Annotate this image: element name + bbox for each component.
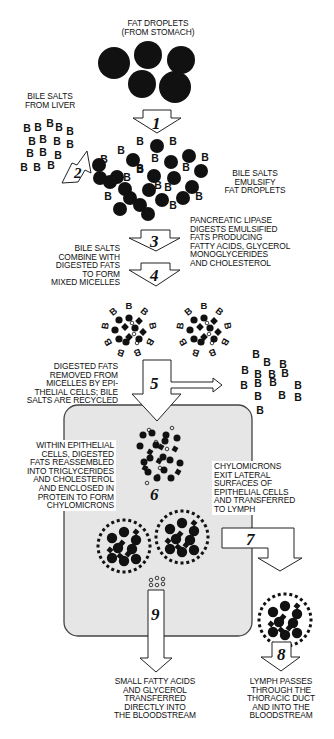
bile-salt-icon: B: [139, 305, 151, 318]
bile-salt-icon: B: [28, 135, 36, 147]
protein-coat-dot-icon: [260, 629, 264, 633]
fat-droplet-icon: [140, 432, 147, 439]
fat-droplet-icon: [174, 435, 181, 442]
bile-salt-icon: B: [104, 190, 112, 202]
fat-droplet-icon: [167, 457, 174, 464]
emulsified-droplets-group: BBBBBBBBBBBBBBB: [92, 135, 209, 221]
step-1-number: 1: [152, 114, 161, 133]
step-4-arrow: 4: [129, 263, 180, 286]
protein-coat-dot-icon: [207, 536, 210, 539]
protein-coat-dot-icon: [181, 562, 184, 565]
bile-salt-icon: B: [164, 181, 172, 193]
fat-droplet-icon: [163, 432, 170, 439]
step-8-arrow: 8: [261, 642, 300, 671]
step-2-arrow: 2: [62, 151, 91, 183]
fat-droplet-icon: [190, 335, 197, 342]
lymph-passes-label: LYMPH PASSES THROUGH THE THORACIC DUCT A…: [236, 677, 326, 720]
step-5-number: 5: [150, 374, 159, 393]
protein-coat-dot-icon: [310, 619, 313, 622]
bile-salt-icon: B: [136, 163, 144, 175]
protein-coat-dot-icon: [267, 598, 271, 602]
fat-droplet-icon: [115, 335, 122, 342]
bile-salt-icon: B: [99, 321, 111, 330]
micelles-group: BBBBBBBBBBBBBBBBBB: [99, 300, 234, 359]
bile-salt-icon: B: [55, 121, 63, 133]
bile-salt-icon: B: [33, 161, 41, 173]
fat-droplet-icon: [125, 314, 132, 321]
small-fatty-acids-label: SMALL FATTY ACIDS AND GLYCEROL TRANSFERR…: [105, 677, 205, 720]
bile-salt-icon: B: [117, 144, 125, 156]
bile-salt-icon: B: [241, 364, 249, 376]
fat-droplet-icon: [98, 47, 130, 79]
protein-coat-dot-icon: [272, 595, 276, 599]
cholesterol-icon: [135, 317, 143, 325]
bile-salt-icon: B: [294, 379, 302, 391]
protein-coat-dot-icon: [299, 598, 303, 602]
fat-droplets-group: [98, 41, 195, 103]
bile-salt-icon: B: [214, 305, 226, 318]
fatty-acid-icon: [205, 321, 209, 325]
bile-salt-icon: B: [263, 356, 271, 368]
protein-coat-dot-icon: [303, 602, 307, 606]
bile-salt-icon: B: [154, 179, 162, 191]
fat-droplet-icon: [107, 553, 117, 563]
bile-salt-icon: B: [254, 390, 262, 402]
cholesterol-icon: [293, 602, 300, 609]
bile-salt-icon: B: [240, 379, 248, 391]
fat-droplet-icon: [147, 455, 154, 462]
fat-droplet-icon: [115, 316, 122, 323]
bile-salt-icon: B: [66, 138, 74, 150]
bile-salt-icon: B: [20, 161, 28, 173]
protein-coat-dot-icon: [155, 536, 158, 539]
bile-salt-icon: B: [144, 337, 157, 349]
fat-droplet-icon: [292, 609, 302, 619]
bile-salt-icon: B: [182, 161, 190, 173]
bile-salt-icon: B: [147, 321, 159, 330]
fat-droplet-icon: [177, 460, 184, 467]
cholesterol-icon: [139, 328, 147, 336]
bile-salt-icon: B: [136, 135, 144, 147]
fatty-acid-icon: [130, 321, 134, 325]
step-2-number: 2: [73, 165, 82, 181]
protein-coat-dot-icon: [267, 638, 271, 642]
protein-coat-dot-icon: [294, 641, 298, 645]
bile-salts-emulsify-label: BILE SALTS EMULSIFY FAT DROPLETS: [215, 169, 295, 195]
fat-droplet-icon: [134, 41, 162, 69]
cholesterol-icon: [196, 323, 204, 331]
fat-droplet-icon: [150, 139, 164, 153]
bile-salt-icon: B: [107, 305, 119, 318]
fat-droplet-icon: [131, 554, 141, 564]
protein-coat-dot-icon: [97, 545, 100, 548]
step-4-number: 4: [149, 266, 159, 285]
protein-coat-dot-icon: [303, 634, 307, 638]
fat-droplet-icon: [141, 207, 155, 221]
step-9-number: 9: [151, 605, 160, 624]
protein-coat-dot-icon: [263, 634, 267, 638]
bile-salt-icon: B: [176, 336, 189, 348]
fat-droplet-icon: [141, 459, 148, 466]
bile-salt-icon: B: [126, 300, 133, 311]
fat-droplet-icon: [206, 324, 213, 331]
bile-salt-icon: B: [222, 321, 234, 330]
fat-droplet-icon: [155, 193, 169, 207]
fat-droplet-icon: [131, 324, 138, 331]
fat-droplet-icon: [137, 443, 144, 450]
bile-salts-liver-group: BBBBBBBBBBBBBBB: [20, 117, 74, 173]
bile-salt-icon: B: [115, 347, 125, 360]
protein-coat-dot-icon: [258, 624, 262, 628]
protein-coat-dot-icon: [149, 545, 152, 548]
bile-salt-icon: B: [254, 377, 262, 389]
pancreatic-lipase-label: PANCREATIC LIPASE DIGESTS EMULSIFIED FAT…: [190, 216, 320, 268]
step-3-arrow: 3: [129, 230, 180, 251]
bile-salt-icon: B: [53, 135, 61, 147]
fatty-acid-icon: [132, 332, 136, 336]
fat-droplet-icon: [280, 601, 290, 611]
fat-droplet-icon: [167, 46, 195, 74]
fat-droplet-icon: [186, 326, 193, 333]
fat-droplet-icon: [93, 171, 107, 185]
step-3-number: 3: [149, 232, 159, 251]
bile-salt-icon: B: [39, 133, 47, 145]
protein-coat-dot-icon: [299, 638, 303, 642]
protein-coat-dot-icon: [181, 510, 184, 513]
step-8-number: 8: [277, 645, 286, 664]
